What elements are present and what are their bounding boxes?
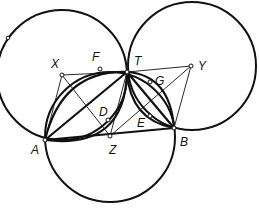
label-x: X xyxy=(50,57,60,71)
label-g: G xyxy=(155,74,164,88)
segment-yb xyxy=(174,66,191,128)
label-b: B xyxy=(180,135,188,149)
point-t xyxy=(125,70,129,74)
point-left xyxy=(6,36,10,40)
label-e: E xyxy=(137,116,146,130)
point-x xyxy=(60,73,64,77)
label-t: T xyxy=(134,54,143,68)
point-g xyxy=(148,80,152,84)
label-f: F xyxy=(92,50,100,64)
label-d: D xyxy=(99,105,108,119)
segment-tz xyxy=(110,72,127,136)
point-y xyxy=(189,64,193,68)
label-z: Z xyxy=(108,143,117,157)
label-y: Y xyxy=(198,59,207,73)
point-f xyxy=(98,67,102,71)
segment-xa xyxy=(45,75,62,140)
point-b xyxy=(172,126,176,130)
point-z xyxy=(108,134,112,138)
point-e xyxy=(148,114,152,118)
label-a: A xyxy=(30,143,39,157)
geometry-diagram: X F T G Y D E A Z B xyxy=(0,0,259,215)
point-a xyxy=(43,138,47,142)
